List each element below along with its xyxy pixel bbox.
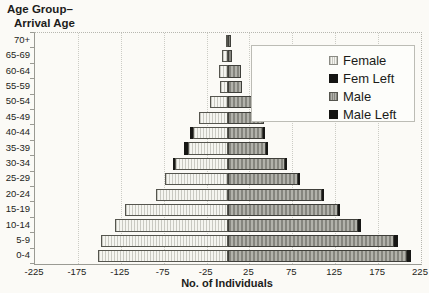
bar-female-20-24 xyxy=(156,189,228,201)
bar-fem-left-30-34 xyxy=(173,158,175,170)
y-axis-tick xyxy=(30,47,34,48)
y-axis-tick xyxy=(30,201,34,202)
bar-male-20-24 xyxy=(228,189,322,201)
bar-male-5-9 xyxy=(228,235,394,247)
legend-swatch-fem-left-icon xyxy=(329,74,338,83)
x-tick-label: -25 xyxy=(184,266,228,277)
bar-male-left-0-4 xyxy=(407,250,410,262)
bar-male-35-39 xyxy=(228,142,266,154)
bar-male-60-64 xyxy=(228,65,241,77)
y-tick-label: 30-34 xyxy=(0,157,30,168)
legend-label: Male xyxy=(343,89,371,104)
y-tick-label: 60-64 xyxy=(0,65,30,76)
bar-male-left-35-39 xyxy=(266,142,269,154)
bar-male-55-59 xyxy=(228,81,242,93)
y-axis-tick xyxy=(30,140,34,141)
y-axis-title-line1: Age Group– xyxy=(7,3,73,15)
bar-male-25-29 xyxy=(228,173,298,185)
y-tick-label: 20-24 xyxy=(0,188,30,199)
x-tick-label: 25 xyxy=(226,266,270,277)
x-tick-label: -75 xyxy=(141,266,185,277)
bar-male-left-15-19 xyxy=(338,204,341,216)
bar-female-5-9 xyxy=(101,235,228,247)
y-axis-tick xyxy=(30,63,34,64)
bar-male-65-69 xyxy=(228,50,232,62)
x-tick-label: 225 xyxy=(398,266,429,277)
bar-female-15-19 xyxy=(125,204,228,216)
bar-male-left-40-44 xyxy=(263,127,265,139)
y-tick-label: 0-4 xyxy=(0,249,30,260)
bar-male-70+ xyxy=(228,35,231,47)
y-tick-label: 10-14 xyxy=(0,219,30,230)
bar-fem-left-35-39 xyxy=(184,142,187,154)
bar-fem-left-40-44 xyxy=(190,127,193,139)
bar-female-50-54 xyxy=(210,96,228,108)
y-tick-label: 35-39 xyxy=(0,142,30,153)
y-axis-tick xyxy=(30,32,34,33)
y-tick-label: 50-54 xyxy=(0,95,30,106)
y-tick-label: 25-29 xyxy=(0,172,30,183)
legend: FemaleFem LeftMaleMale Left xyxy=(251,45,415,122)
y-tick-label: 45-49 xyxy=(0,111,30,122)
bar-female-60-64 xyxy=(219,65,228,77)
y-axis-tick xyxy=(30,186,34,187)
chart-container: Age Group– Arrival Age No. of Individual… xyxy=(0,0,429,293)
y-tick-label: 15-19 xyxy=(0,203,30,214)
y-axis-title-line2: Arrival Age xyxy=(14,16,75,30)
bar-male-10-14 xyxy=(228,219,358,231)
legend-item-male: Male xyxy=(329,87,414,105)
legend-label: Male Left xyxy=(343,107,396,122)
bar-female-45-49 xyxy=(199,112,228,124)
x-tick-label: -125 xyxy=(98,266,142,277)
legend-swatch-male-left-icon xyxy=(329,110,338,119)
y-axis-tick xyxy=(30,217,34,218)
y-axis-tick xyxy=(30,232,34,233)
bar-male-left-25-29 xyxy=(298,173,301,185)
y-axis-tick xyxy=(30,263,34,264)
legend-item-male-left: Male Left xyxy=(329,105,414,123)
bar-female-25-29 xyxy=(165,173,228,185)
bar-male-left-20-24 xyxy=(322,189,325,201)
bar-female-30-34 xyxy=(175,158,228,170)
x-tick-label: 125 xyxy=(312,266,356,277)
x-tick-label: -175 xyxy=(55,266,99,277)
x-axis-title: No. of Individuals xyxy=(137,277,317,289)
bar-female-35-39 xyxy=(188,142,228,154)
legend-item-female: Female xyxy=(329,51,414,69)
y-tick-label: 55-59 xyxy=(0,80,30,91)
bar-female-10-14 xyxy=(115,219,228,231)
legend-swatch-male-icon xyxy=(329,92,338,101)
y-axis-tick xyxy=(30,94,34,95)
bar-female-0-4 xyxy=(98,250,228,262)
bar-male-40-44 xyxy=(228,127,263,139)
y-axis-tick xyxy=(30,155,34,156)
legend-label: Fem Left xyxy=(343,71,394,86)
bar-male-0-4 xyxy=(228,250,407,262)
x-tick-label: 175 xyxy=(355,266,399,277)
bar-male-15-19 xyxy=(228,204,338,216)
y-tick-label: 40-44 xyxy=(0,126,30,137)
legend-item-fem-left: Fem Left xyxy=(329,69,414,87)
bar-male-left-5-9 xyxy=(394,235,398,247)
legend-label: Female xyxy=(343,53,386,68)
y-axis-title: Age Group– Arrival Age xyxy=(7,2,75,30)
bar-female-40-44 xyxy=(193,127,228,139)
y-axis-tick xyxy=(30,248,34,249)
y-axis-tick xyxy=(30,109,34,110)
y-axis-tick xyxy=(30,78,34,79)
y-tick-label: 70+ xyxy=(0,34,30,45)
bar-male-left-30-34 xyxy=(285,158,288,170)
y-axis-tick xyxy=(30,171,34,172)
bar-male-left-10-14 xyxy=(358,219,361,231)
bar-male-30-34 xyxy=(228,158,285,170)
x-tick-label: 75 xyxy=(269,266,313,277)
bar-female-55-59 xyxy=(220,81,228,93)
legend-swatch-female-icon xyxy=(329,56,338,65)
y-tick-label: 65-69 xyxy=(0,49,30,60)
y-tick-label: 5-9 xyxy=(0,234,30,245)
y-axis-tick xyxy=(30,124,34,125)
gridline xyxy=(78,33,79,264)
x-tick-label: -225 xyxy=(12,266,56,277)
